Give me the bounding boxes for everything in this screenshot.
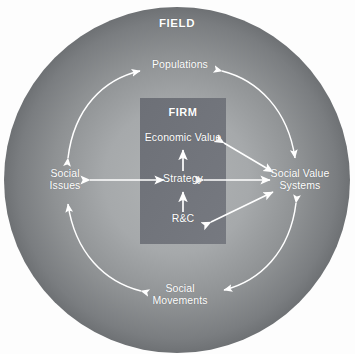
diagram-canvas: FIELD Populations Social Issues Social V…: [0, 0, 355, 354]
diagram-svg: [0, 0, 355, 354]
